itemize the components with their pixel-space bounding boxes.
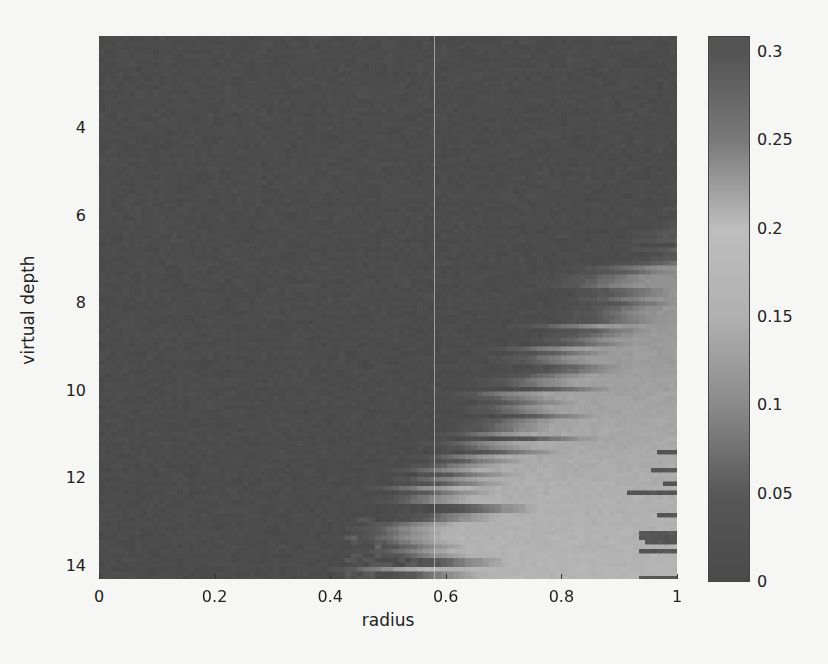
y-tick-label: 4: [46, 118, 86, 137]
colorbar-tick-label: 0.15: [757, 307, 793, 326]
x-tick-mark: [561, 574, 562, 579]
colorbar-tick-label: 0: [757, 572, 767, 591]
x-tick-label: 1: [657, 587, 697, 606]
colorbar-tick-label: 0.3: [757, 42, 782, 61]
x-tick-label: 0: [79, 587, 119, 606]
x-tick-mark: [330, 574, 331, 579]
heatmap-canvas: [99, 36, 677, 579]
colorbar-tick-label: 0.1: [757, 395, 782, 414]
colorbar-tick-label: 0.25: [757, 130, 793, 149]
colorbar-tick-label: 0.05: [757, 484, 793, 503]
y-axis-label: virtual depth: [18, 255, 38, 364]
heatmap-plot-area: [99, 36, 677, 579]
x-tick-mark: [677, 574, 678, 579]
y-tick-label: 10: [46, 381, 86, 400]
y-tick-label: 14: [46, 556, 86, 575]
x-tick-mark: [99, 574, 100, 579]
x-axis-label: radius: [358, 610, 418, 630]
y-tick-label: 6: [46, 206, 86, 225]
x-tick-label: 0.8: [541, 587, 581, 606]
artifact-vertical-line: [434, 36, 435, 579]
colorbar-tick-label: 0.2: [757, 219, 782, 238]
x-tick-mark: [446, 574, 447, 579]
y-tick-label: 12: [46, 468, 86, 487]
x-tick-label: 0.2: [195, 587, 235, 606]
colorbar: [708, 36, 750, 582]
x-tick-label: 0.6: [426, 587, 466, 606]
y-tick-label: 8: [46, 293, 86, 312]
x-tick-label: 0.4: [310, 587, 350, 606]
x-tick-mark: [215, 574, 216, 579]
